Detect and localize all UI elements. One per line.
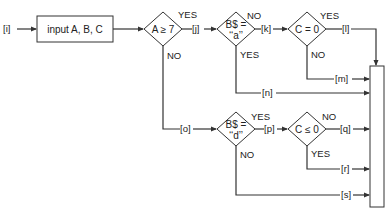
decision-b-eq-d-line2: ‘‘d’’ (229, 130, 243, 141)
decision-a-ge-7-text: A ≥ 7 (152, 24, 175, 35)
d2-no-label: NO (247, 10, 261, 21)
decision-c-eq-0-text: C = 0 (295, 24, 320, 35)
decision-b-eq-a-line1: B$ = (226, 19, 247, 30)
collector-box (370, 66, 384, 207)
path-label-p: [p] (264, 123, 275, 134)
input-box-text: input A, B, C (47, 24, 103, 35)
decision-b-eq-d-line1: B$ = (226, 119, 247, 130)
d5-yes-label: YES (311, 148, 330, 159)
path-label-s: [s] (341, 189, 351, 200)
path-label-r: [r] (341, 163, 349, 174)
path-label-i: [i] (3, 23, 10, 34)
d2-yes-label: YES (240, 49, 259, 60)
d3-no-label: NO (311, 49, 325, 60)
path-label-n: [n] (262, 87, 273, 98)
decision-c-le-0-text: C ≤ 0 (295, 124, 319, 135)
d4-no-label: NO (240, 149, 254, 160)
d1-no-label: NO (167, 50, 181, 61)
path-label-j: [j] (192, 23, 199, 34)
path-label-q: [q] (340, 123, 351, 134)
path-label-o: [o] (180, 123, 191, 134)
arrow-l-to-collector (351, 29, 376, 65)
flowchart: [i] input A, B, C A ≥ 7 YES NO [j] B$ = … (0, 0, 392, 217)
path-label-l: [l] (342, 23, 349, 34)
path-label-k: [k] (261, 23, 271, 34)
decision-b-eq-a-line2: ‘‘a’’ (229, 30, 243, 41)
d1-yes-label: YES (178, 9, 197, 20)
d4-yes-label: YES (251, 111, 270, 122)
d3-yes-label: YES (320, 10, 339, 21)
d5-no-label: NO (322, 111, 336, 122)
path-label-m: [m] (335, 73, 348, 84)
